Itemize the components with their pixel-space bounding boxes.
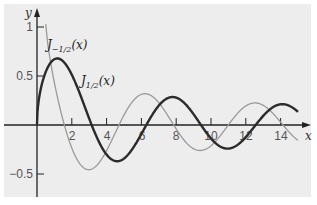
ytick-label-neg0.5: −0.5 [9,167,33,181]
curve-j-pos-half [37,58,298,161]
x-ticks [72,118,281,125]
xtick-label-4: 4 [104,129,111,143]
xtick-label-8: 8 [173,129,180,143]
label-j-neg-half: J−1/2(x) [44,38,88,54]
y-axis-label: y [24,6,32,20]
xtick-label-14: 14 [274,129,288,143]
x-axis-label: x [305,129,312,143]
bessel-chart: 1 0.5 −0.5 2 4 6 8 10 12 14 y x J−1/2(x)… [0,0,317,205]
x-axis-arrow-icon [302,122,311,128]
y-axis-arrow-icon [34,8,40,17]
label-j-pos-half: J1/2(x) [78,74,115,90]
ytick-label-1: 1 [26,20,33,34]
ytick-label-0.5: 0.5 [16,69,33,83]
